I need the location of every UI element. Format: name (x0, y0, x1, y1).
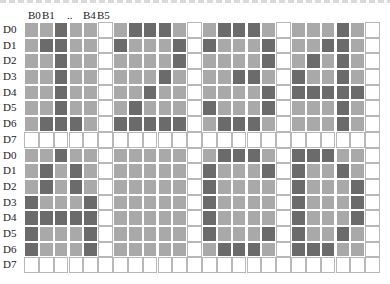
matrix-cell-on (113, 38, 128, 54)
matrix-cell-off (321, 132, 336, 148)
matrix-cell-on (261, 163, 276, 179)
matrix-cell-mid (217, 210, 232, 226)
matrix-cell-mid (321, 116, 336, 132)
matrix-cell-mid (128, 69, 143, 85)
matrix-cell-off (187, 53, 202, 69)
matrix-cell-mid (217, 69, 232, 85)
matrix-cell-mid (306, 210, 321, 226)
matrix-cell-mid (69, 85, 84, 101)
row-label: D0 (3, 22, 24, 38)
matrix-cell-mid (247, 100, 262, 116)
matrix-cell-mid (247, 210, 262, 226)
matrix-cell-mid (113, 85, 128, 101)
matrix-cell-on (113, 116, 128, 132)
matrix-cell-off (187, 132, 202, 148)
matrix-cell-off (158, 132, 173, 148)
matrix-cell-off (69, 132, 84, 148)
matrix-cell-mid (113, 53, 128, 69)
matrix-cell-on (336, 85, 351, 101)
matrix-cell-on (69, 179, 84, 195)
matrix-cell-on (261, 100, 276, 116)
matrix-cell-mid (232, 100, 247, 116)
matrix-cell-off (158, 257, 173, 273)
matrix-cell-mid (202, 148, 217, 164)
matrix-cell-mid (247, 38, 262, 54)
matrix-cell-mid (24, 116, 39, 132)
matrix-cell-on (128, 116, 143, 132)
matrix-cell-off (291, 132, 306, 148)
matrix-cell-off (350, 132, 365, 148)
matrix-cell-mid (291, 53, 306, 69)
matrix-cell-mid (232, 38, 247, 54)
matrix-cell-on (321, 242, 336, 258)
matrix-cell-off (187, 242, 202, 258)
matrix-cell-mid (217, 85, 232, 101)
matrix-cell-mid (158, 179, 173, 195)
matrix-cell-mid (83, 116, 98, 132)
matrix-cell-on (321, 148, 336, 164)
matrix-cell-mid (113, 179, 128, 195)
matrix-cell-mid (247, 53, 262, 69)
matrix-cell-on (54, 210, 69, 226)
matrix-cell-mid (202, 69, 217, 85)
matrix-cell-on (247, 148, 262, 164)
matrix-cell-on (54, 116, 69, 132)
matrix-cell-mid (306, 100, 321, 116)
matrix-cell-mid (158, 38, 173, 54)
matrix-cell-on (54, 38, 69, 54)
matrix-cell-off (336, 257, 351, 273)
matrix-cell-mid (350, 53, 365, 69)
matrix-cell-mid (291, 100, 306, 116)
row-label: D3 (3, 69, 24, 85)
matrix-cell-on (54, 69, 69, 85)
matrix-cell-on (306, 85, 321, 101)
matrix-cell-on (202, 210, 217, 226)
matrix-cell-off (276, 257, 291, 273)
row-label: D4 (3, 210, 24, 226)
matrix-cell-mid (69, 38, 84, 54)
matrix-cell-mid (172, 85, 187, 101)
matrix-cell-on (291, 242, 306, 258)
matrix-cell-mid (247, 179, 262, 195)
matrix-cell-mid (217, 163, 232, 179)
matrix-cell-on (83, 195, 98, 211)
matrix-cell-on (83, 226, 98, 242)
matrix-cell-on (350, 210, 365, 226)
matrix-cell-off (365, 100, 380, 116)
matrix-cell-mid (113, 210, 128, 226)
matrix-cell-mid (261, 148, 276, 164)
row-label: D6 (3, 242, 24, 258)
matrix-cell-on (321, 38, 336, 54)
matrix-cell-off (276, 148, 291, 164)
matrix-cell-mid (128, 179, 143, 195)
matrix-cell-on (69, 116, 84, 132)
row-label: D3 (3, 195, 24, 211)
matrix-cell-mid (113, 148, 128, 164)
matrix-cell-off (291, 257, 306, 273)
matrix-cell-off (113, 132, 128, 148)
matrix-cell-mid (128, 242, 143, 258)
matrix-cell-on (321, 85, 336, 101)
matrix-cell-off (187, 148, 202, 164)
matrix-cell-off (187, 210, 202, 226)
matrix-cell-on (202, 195, 217, 211)
matrix-cell-mid (172, 148, 187, 164)
matrix-cell-on (202, 38, 217, 54)
matrix-cell-on (83, 210, 98, 226)
matrix-cell-mid (83, 38, 98, 54)
row-label: D7 (3, 257, 24, 273)
matrix-cell-off (261, 132, 276, 148)
column-label: B4 (83, 9, 96, 21)
matrix-cell-on (172, 53, 187, 69)
matrix-cell-mid (128, 210, 143, 226)
matrix-cell-off (98, 226, 113, 242)
matrix-cell-mid (232, 53, 247, 69)
matrix-cell-off (24, 132, 39, 148)
matrix-cell-mid (54, 163, 69, 179)
matrix-cell-mid (143, 38, 158, 54)
matrix-cell-mid (39, 148, 54, 164)
matrix-cell-on (24, 226, 39, 242)
matrix-cell-mid (128, 53, 143, 69)
matrix-cell-on (247, 22, 262, 38)
matrix-cell-mid (158, 210, 173, 226)
